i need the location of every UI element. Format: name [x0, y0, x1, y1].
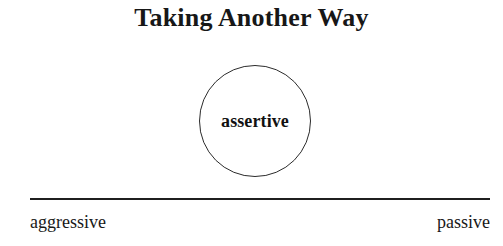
spectrum-axis-line [30, 198, 490, 200]
axis-label-aggressive: aggressive [30, 211, 106, 233]
page-title: Taking Another Way [0, 2, 503, 34]
diagram-canvas: Taking Another Way assertive aggressive … [0, 0, 503, 246]
axis-label-passive: passive [437, 211, 490, 233]
assertive-node-circle: assertive [199, 65, 311, 177]
assertive-node-label: assertive [221, 112, 289, 130]
